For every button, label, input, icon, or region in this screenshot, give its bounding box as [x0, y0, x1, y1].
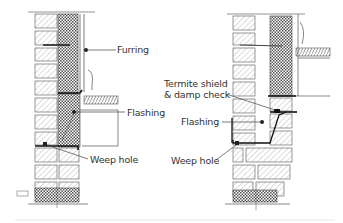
left-backing-lower — [58, 94, 80, 147]
label-right-flashing: Flashing — [181, 116, 219, 127]
left-weep-hole-icon — [43, 142, 47, 146]
left-backing-upper — [58, 14, 78, 94]
label-right-weep-hole: Weep hole — [171, 155, 219, 166]
bottom-divider — [15, 219, 335, 221]
left-flashing-marker-icon — [72, 110, 76, 114]
label-damp-check: & damp check — [164, 89, 230, 100]
right-weep-hole-icon — [235, 141, 239, 145]
right-wall-detail — [216, 14, 330, 210]
label-termite-shield: Termite shield — [164, 78, 228, 89]
label-left-flashing: Flashing — [127, 107, 165, 118]
label-left-weep-hole: Weep hole — [90, 154, 138, 165]
label-furring: Furring — [117, 44, 149, 55]
left-wall-detail — [17, 12, 125, 208]
right-flashing-marker-icon — [260, 120, 264, 124]
furring-marker-icon — [84, 48, 88, 52]
wall-section-diagram — [0, 0, 343, 223]
